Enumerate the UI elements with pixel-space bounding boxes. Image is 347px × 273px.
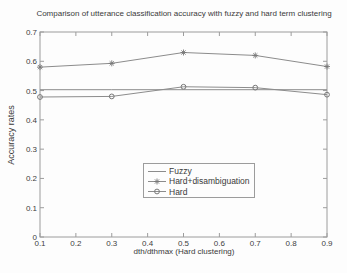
svg-text:0.2: 0.2 [70, 239, 82, 248]
legend: Fuzzy Hard+disambiguation Hard [143, 163, 255, 198]
svg-text:0.3: 0.3 [106, 239, 118, 248]
legend-label-fuzzy: Fuzzy [169, 166, 192, 176]
x-axis-label: dth/dthmax (Hard clustering) [134, 247, 235, 256]
svg-text:0.8: 0.8 [286, 239, 298, 248]
legend-marker-hard [147, 187, 167, 196]
legend-marker-hard-disambiguation [147, 177, 167, 186]
legend-label-hard-disambiguation: Hard+disambiguation [169, 176, 250, 186]
svg-text:0.7: 0.7 [250, 239, 262, 248]
legend-marker-fuzzy [147, 167, 167, 176]
svg-text:0.6: 0.6 [26, 57, 38, 66]
svg-text:0.9: 0.9 [321, 239, 333, 248]
svg-text:0.2: 0.2 [26, 174, 38, 183]
svg-text:0: 0 [33, 233, 38, 242]
svg-text:0.3: 0.3 [26, 145, 38, 154]
legend-label-hard: Hard [169, 187, 187, 197]
svg-text:0.7: 0.7 [26, 28, 38, 37]
svg-text:0.4: 0.4 [26, 116, 38, 125]
legend-row: Hard [147, 187, 254, 197]
legend-row: Fuzzy [147, 166, 254, 176]
plot-area: 0.10.20.30.40.50.60.70.80.900.10.20.30.4… [0, 0, 347, 273]
legend-row: Hard+disambiguation [147, 176, 254, 186]
svg-text:0.1: 0.1 [26, 204, 38, 213]
svg-text:0.5: 0.5 [26, 87, 38, 96]
figure: Comparison of utterance classification a… [0, 0, 347, 273]
